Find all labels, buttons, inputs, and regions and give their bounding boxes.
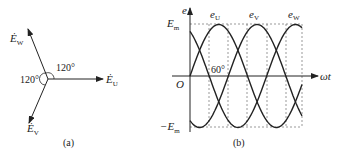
- label-ev-curve: eV: [249, 8, 259, 22]
- label-ev: ĖV: [26, 122, 39, 137]
- three-phase-diagram: 120° 120° ĖU ĖW ĖV (a) e ωt O Em −Em 60: [0, 0, 337, 160]
- label-ew-curve: eW: [288, 8, 300, 22]
- angle-label-1: 120°: [56, 62, 75, 73]
- angle-arc-2: [39, 73, 46, 85]
- caption-b: (b): [233, 137, 245, 149]
- vector-ew: [28, 29, 48, 79]
- label-ew: ĖW: [9, 32, 24, 47]
- ymin-label: −Em: [160, 120, 180, 135]
- y-axis-label: e: [182, 4, 187, 16]
- label-eu-curve: eU: [210, 8, 220, 22]
- angle-annotation: 60°: [211, 64, 225, 75]
- caption-a: (a): [63, 137, 74, 149]
- label-eu: ĖU: [105, 73, 118, 88]
- angle-label-2: 120°: [20, 74, 39, 85]
- phasor-diagram: 120° 120° ĖU ĖW ĖV (a): [9, 29, 118, 149]
- vector-ev: [29, 79, 48, 123]
- waveform-chart: e ωt O Em −Em 60° eU eV eW (b): [160, 4, 332, 149]
- origin-label: O: [176, 78, 184, 90]
- x-axis-label: ωt: [320, 70, 332, 82]
- ymax-label: Em: [166, 17, 180, 32]
